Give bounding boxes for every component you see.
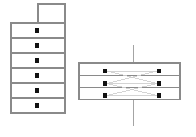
left-stack-node	[35, 73, 39, 77]
right-panel-row	[79, 88, 180, 100]
diagram-canvas	[0, 0, 196, 137]
diagram-figure	[0, 0, 196, 137]
right-panel-row	[79, 63, 180, 75]
right-panel-target-node	[157, 81, 161, 85]
left-stack-node	[35, 88, 39, 92]
right-panel-row	[79, 75, 180, 87]
right-panel-source-node	[103, 93, 107, 97]
right-panel-target-node	[157, 69, 161, 73]
left-stack-node	[35, 43, 39, 47]
right-panel-source-node	[103, 69, 107, 73]
stack-cap-layer	[38, 4, 65, 23]
stack-cap	[38, 4, 65, 23]
left-stack-node	[35, 103, 39, 107]
right-panel-source-node	[103, 81, 107, 85]
left-stack-node	[35, 58, 39, 62]
left-stack-rows-layer	[11, 23, 65, 113]
left-stack-node	[35, 28, 39, 32]
right-panel-rows-layer	[79, 63, 180, 100]
right-panel-target-node	[157, 93, 161, 97]
